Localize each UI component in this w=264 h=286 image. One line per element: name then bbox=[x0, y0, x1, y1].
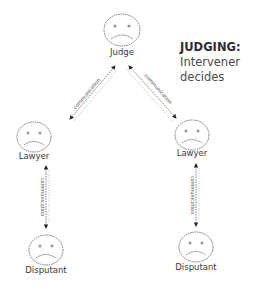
disputant-right-label: Disputant bbox=[175, 262, 217, 272]
caption-line-2: decides bbox=[180, 70, 241, 85]
edge-lawyer-left-judge: communication bbox=[70, 66, 118, 121]
edge-lawyer-left-disputant-left: communication bbox=[40, 166, 49, 228]
edge-label: communication bbox=[143, 72, 173, 105]
edge-judge-lawyer-right: communication bbox=[126, 66, 176, 121]
lawyer-left-label: Lawyer bbox=[19, 151, 50, 161]
caption-title: JUDGING: bbox=[180, 40, 241, 55]
caption-line-1: Intervener bbox=[180, 55, 241, 70]
judge-face-icon bbox=[104, 14, 140, 46]
edge-lawyer-right-disputant-right: communication bbox=[190, 164, 199, 226]
edge-label: communication bbox=[40, 178, 46, 217]
lawyer-left-face-icon bbox=[17, 122, 51, 152]
disputant-left-label: Disputant bbox=[25, 265, 67, 275]
edge-label: communication bbox=[190, 176, 196, 215]
judging-caption: JUDGING: Intervener decides bbox=[180, 40, 241, 85]
lawyer-right-label: Lawyer bbox=[177, 148, 208, 158]
disputant-right-face-icon bbox=[179, 232, 213, 262]
disputant-left-face-icon bbox=[29, 235, 63, 265]
lawyer-right-face-icon bbox=[175, 120, 209, 150]
judge-label: Judge bbox=[109, 47, 134, 57]
